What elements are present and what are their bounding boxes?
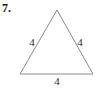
geometry-figure: 7. 4 4 4 — [0, 0, 103, 89]
side-label-bottom: 4 — [51, 76, 63, 87]
side-label-right: 4 — [74, 37, 86, 48]
side-label-left: 4 — [26, 37, 38, 48]
